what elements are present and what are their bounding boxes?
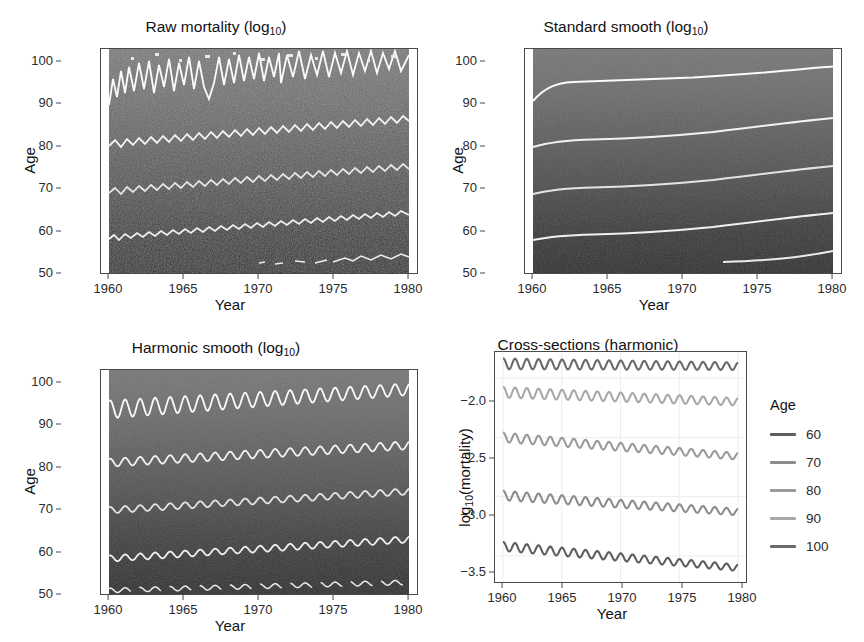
- y-tick-70: 70: [425, 180, 485, 195]
- legend-key-swatch: [770, 461, 796, 464]
- x-axis-title-text: Year: [639, 296, 669, 313]
- tick-mark: [56, 61, 61, 62]
- tick-mark: [56, 382, 61, 383]
- x-tick-1975: 1975: [743, 274, 772, 296]
- plot-area-cross-sections: [494, 351, 747, 583]
- tick-mark: [621, 583, 622, 588]
- tick-mark: [332, 274, 333, 279]
- heatmap-raw-svg: [101, 49, 417, 273]
- line-chart-cross-sections: [495, 352, 746, 582]
- legend-title: Age: [770, 397, 829, 413]
- tick-mark: [606, 274, 607, 279]
- x-tick-1960: 1960: [94, 595, 123, 617]
- panel-standard-smooth: Standard smooth (log10) Age 100 90 80 70…: [432, 0, 864, 321]
- legend-item-70[interactable]: 70: [770, 452, 829, 473]
- panel-title-harmonic-smooth: Harmonic smooth (log10): [0, 339, 432, 357]
- tick-mark: [56, 424, 61, 425]
- x-tick-label: 1960: [94, 602, 123, 617]
- x-tick-label: 1960: [488, 590, 517, 605]
- x-tick-1970: 1970: [668, 274, 697, 296]
- heatmap-harmonic: [101, 370, 417, 594]
- tick-mark: [407, 274, 408, 279]
- heatmap-raw: [101, 49, 417, 273]
- y-tick-50: 50: [425, 265, 485, 280]
- y-tick-60: 60: [1, 223, 61, 238]
- x-tick-1980: 1980: [818, 274, 847, 296]
- y-tick-80: 80: [1, 459, 61, 474]
- legend-item-90[interactable]: 90: [770, 508, 829, 529]
- tick-mark: [182, 274, 183, 279]
- x-tick-label: 1980: [728, 590, 757, 605]
- grid-lines: [495, 352, 746, 582]
- x-tick-label: 1965: [169, 602, 198, 617]
- tick-mark: [107, 595, 108, 600]
- legend-item-80[interactable]: 80: [770, 480, 829, 501]
- legend-key-swatch: [770, 517, 796, 520]
- y-tick-label: 90: [39, 95, 53, 110]
- tick-mark: [561, 583, 562, 588]
- y-tick-60: 60: [1, 544, 61, 559]
- panel-harmonic-smooth: Harmonic smooth (log10) Age 100 90 80 70…: [0, 321, 432, 642]
- y-tick-100: 100: [1, 374, 61, 389]
- legend-key-swatch: [770, 433, 796, 436]
- x-axis-title-text: Year: [215, 617, 245, 634]
- y-axis-title-subscript: 10: [463, 495, 475, 507]
- legend-key-swatch: [770, 545, 796, 548]
- x-tick-label: 1970: [244, 281, 273, 296]
- x-tick-1965: 1965: [593, 274, 622, 296]
- x-axis-title-text: Year: [215, 296, 245, 313]
- y-tick-minus-2.5: −2.5: [434, 450, 494, 465]
- x-tick-label: 1980: [394, 602, 423, 617]
- y-tick-50: 50: [1, 265, 61, 280]
- tick-mark: [332, 595, 333, 600]
- x-tick-1980: 1980: [394, 274, 423, 296]
- legend-item-label: 60: [806, 427, 821, 442]
- x-axis-title-standard: Year: [464, 296, 844, 313]
- x-tick-1965: 1965: [169, 274, 198, 296]
- tick-mark: [741, 583, 742, 588]
- y-tick-label: 100: [455, 53, 477, 68]
- y-tick-label: 50: [463, 265, 477, 280]
- x-axis-title-text: Year: [597, 605, 627, 622]
- cross-sections-svg: [495, 352, 746, 582]
- panel-cross-sections: Cross-sections (harmonic) log10(mortalit…: [432, 321, 864, 642]
- x-tick-label: 1975: [319, 281, 348, 296]
- y-tick-label: 60: [39, 223, 53, 238]
- x-tick-label: 1965: [548, 590, 577, 605]
- tick-mark: [56, 273, 61, 274]
- legend-item-label: 100: [806, 539, 829, 554]
- y-tick-100: 100: [425, 53, 485, 68]
- tick-mark: [56, 103, 61, 104]
- panel-title-text: Standard smooth (log: [543, 18, 691, 35]
- y-tick-label: −2.0: [460, 393, 486, 408]
- tick-mark: [480, 188, 485, 189]
- tick-mark: [831, 274, 832, 279]
- x-tick-1975: 1975: [668, 583, 697, 605]
- tick-mark: [531, 274, 532, 279]
- x-tick-label: 1975: [743, 281, 772, 296]
- y-tick-label: 60: [39, 544, 53, 559]
- x-tick-label: 1980: [394, 281, 423, 296]
- panel-title-subscript: 10: [283, 346, 295, 358]
- tick-mark: [681, 583, 682, 588]
- legend-key-swatch: [770, 489, 796, 492]
- x-tick-label: 1970: [244, 602, 273, 617]
- tick-mark: [501, 583, 502, 588]
- tick-mark: [480, 273, 485, 274]
- plot-area-raw-mortality: [100, 48, 418, 274]
- y-tick-90: 90: [1, 95, 61, 110]
- x-tick-1975: 1975: [319, 595, 348, 617]
- y-tick-label: −3.5: [460, 564, 486, 579]
- y-axis-title-cross-sections: log10(mortality): [456, 398, 473, 558]
- x-tick-1970: 1970: [608, 583, 637, 605]
- y-tick-label: 80: [39, 459, 53, 474]
- tick-mark: [407, 595, 408, 600]
- panel-title-subscript: 10: [692, 25, 704, 37]
- x-tick-1960: 1960: [518, 274, 547, 296]
- tick-mark: [257, 595, 258, 600]
- legend-item-100[interactable]: 100: [770, 536, 829, 557]
- x-tick-1970: 1970: [244, 274, 273, 296]
- x-axis-title-cross-sections: Year: [447, 605, 777, 622]
- legend-item-60[interactable]: 60: [770, 424, 829, 445]
- y-tick-minus-3.5: −3.5: [434, 564, 494, 579]
